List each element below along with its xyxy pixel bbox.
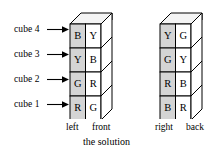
cube-face-letter: Y	[74, 54, 82, 65]
arrow-to-cube-2	[47, 75, 70, 84]
cube-face-letter: Y	[179, 54, 187, 65]
cube-face-letter: B	[180, 78, 187, 89]
face-label-back: back	[186, 122, 204, 132]
cube-face-letter: R	[180, 102, 187, 113]
cube-face-letter: R	[164, 78, 171, 89]
row-label-cube-3: cube 3	[14, 49, 40, 59]
cube-face-letter: R	[90, 78, 97, 89]
arrow-to-cube-1	[47, 100, 70, 109]
cube-stacking-solution-figure: cube 4 cube 3 cube 2 cube 1	[0, 0, 216, 154]
face-label-left: left	[66, 122, 79, 132]
face-label-front: front	[92, 122, 110, 132]
face-label-right: right	[155, 122, 173, 132]
arrow-to-cube-3	[47, 50, 70, 59]
cube-face-letter: G	[164, 54, 172, 65]
cube-face-letter: R	[74, 102, 81, 113]
cube-face-letter: B	[74, 30, 81, 41]
row-label-cube-4: cube 4	[14, 24, 40, 34]
cube-face-letter: G	[74, 78, 82, 89]
cube-face-letter: G	[89, 102, 97, 113]
row-label-cube-1: cube 1	[14, 99, 40, 109]
cube-face-letter: B	[164, 102, 171, 113]
cube-face-letter: G	[179, 30, 187, 41]
row-label-cube-2: cube 2	[14, 74, 40, 84]
arrow-to-cube-4	[47, 25, 70, 34]
cube-face-letter: B	[90, 54, 97, 65]
right-back-tower: Y G G Y R B B R	[158, 11, 204, 119]
cube-face-letter: Y	[164, 30, 172, 41]
cube-face-letter: Y	[89, 30, 97, 41]
left-front-tower: B Y Y B G R R G	[68, 11, 114, 119]
figure-caption: the solution	[83, 136, 130, 147]
